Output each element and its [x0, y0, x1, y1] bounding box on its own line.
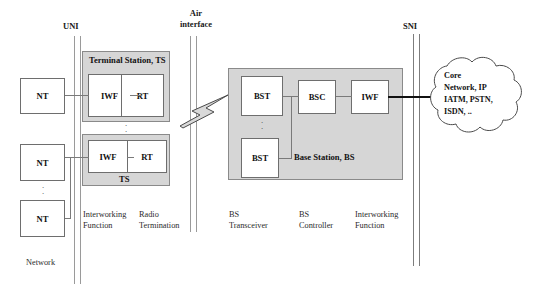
- ts2-iwf-label: IWF: [89, 152, 127, 162]
- bst-box-2: BST: [241, 138, 279, 178]
- terminal-station-1-title: Terminal Station, TS: [89, 55, 166, 65]
- bst-box-2-label: BST: [242, 153, 278, 163]
- cloud-text-line2: Network, IP: [444, 82, 487, 93]
- terminal-station-2-title: TS: [119, 174, 130, 184]
- bs-legend-iwf-line2: Function: [355, 221, 385, 230]
- air-interface-line: [190, 36, 197, 232]
- nt-box-3: NT: [20, 200, 65, 237]
- ts-ellipsis: · ·: [116, 123, 136, 135]
- uni-interface-line: [74, 36, 81, 284]
- ts-legend-rt-line1: Radio: [139, 210, 159, 219]
- bst-box-1-label: BST: [242, 91, 282, 101]
- bst-ellipsis: · ·: [252, 120, 272, 132]
- connector-nt1-to-ts1: [65, 95, 89, 96]
- connector-iwf-to-core-network: [388, 96, 438, 98]
- connector-ts2-iwf-rt: [127, 157, 134, 158]
- ts1-rt-label: RT: [122, 91, 163, 101]
- ts2-iwf-box: IWF: [88, 140, 128, 173]
- cloud-text-line3: IATM, PSTN,: [444, 94, 493, 105]
- connector-nt2-to-ts2: [65, 157, 89, 158]
- bs-legend-bsc-line2: Controller: [299, 221, 333, 230]
- air-interface-label-line1: Air: [178, 9, 214, 19]
- bst-box-1: BST: [241, 76, 283, 116]
- air-interface-label-line2: interface: [168, 20, 224, 30]
- nt-box-2: NT: [20, 144, 65, 181]
- ts1-rt-box: RT: [121, 74, 164, 117]
- sni-interface-line: [413, 34, 420, 266]
- connector-bst2-vertical: [291, 96, 292, 159]
- connector-ts1-iwf-rt: [130, 95, 142, 96]
- bs-legend-bst-line1: BS: [229, 210, 239, 219]
- ts-legend-rt-line2: Termination: [139, 221, 179, 230]
- connector-bsc-to-iwf: [336, 96, 352, 97]
- ts-legend-iwf-line2: Function: [83, 221, 113, 230]
- nt-box-1: NT: [20, 78, 65, 114]
- bs-legend-bst-line2: Transceiver: [229, 221, 268, 230]
- nt-box-2-label: NT: [21, 158, 64, 168]
- bs-legend-bsc-line1: BS: [299, 210, 309, 219]
- bs-legend-iwf-line1: Interworking: [355, 210, 398, 219]
- diagram-canvas: UNI Air interface SNI NT NT NT · · Termi…: [0, 0, 533, 287]
- bsc-box: BSC: [298, 80, 336, 114]
- network-label: Network: [26, 258, 55, 267]
- bs-iwf-box-label: IWF: [352, 92, 388, 102]
- cloud-text-line4: ISDN, ..: [444, 106, 472, 117]
- bs-iwf-box: IWF: [351, 80, 389, 114]
- connector-nt3-vertical: [70, 157, 71, 219]
- air-link-lightning-icon: [180, 95, 228, 128]
- base-station-title: Base Station, BS: [294, 152, 354, 162]
- nt-ellipsis: · ·: [33, 185, 53, 197]
- bsc-box-label: BSC: [299, 92, 335, 102]
- cloud-text-line1: Core: [444, 70, 461, 81]
- ts-legend-iwf-line1: Interworking: [83, 210, 126, 219]
- uni-label: UNI: [63, 22, 79, 32]
- nt-box-1-label: NT: [21, 91, 64, 101]
- sni-label: SNI: [403, 22, 417, 32]
- nt-box-3-label: NT: [21, 214, 64, 224]
